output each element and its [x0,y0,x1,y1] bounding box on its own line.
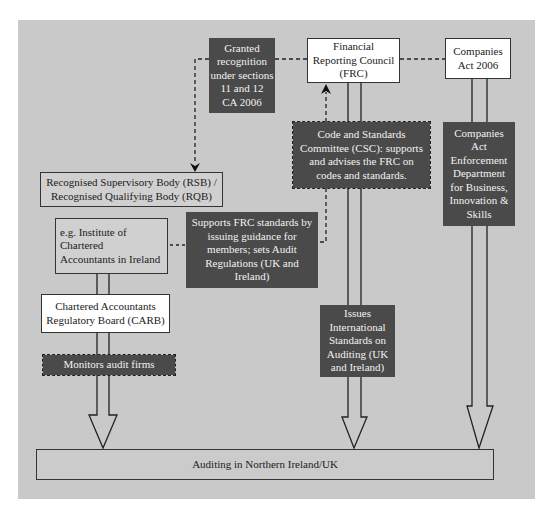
enforcement-department-box: Companies Act Enforcement Department for… [443,122,515,226]
hollow-arrow-carb [89,375,117,448]
arrowhead-rsb [190,163,200,172]
dashed-connector-csc-supports [318,188,326,242]
rsb-rqb-label: Recognised Supervisory Body (RSB) / Reco… [46,176,217,203]
monitors-box: Monitors audit firms [43,355,175,375]
auditing-ni-uk-box: Auditing in Northern Ireland/UK [36,449,494,480]
frc-box: Financial Reporting Council (FRC) [307,38,400,83]
auditing-ni-uk-label: Auditing in Northern Ireland/UK [192,458,338,472]
csc-box: Code and Standards Committee (CSC): supp… [293,122,430,188]
enforcement-department-label: Companies Act Enforcement Department for… [450,127,509,222]
issues-isa-label: Issues International Standards on Auditi… [327,307,388,375]
granted-recognition-box: Granted recognition under sections 11 an… [209,38,275,113]
carb-label: Chartered Accountants Regulatory Board (… [46,300,165,327]
granted-recognition-label: Granted recognition under sections 11 an… [210,42,273,110]
issues-isa-box: Issues International Standards on Auditi… [320,305,395,377]
hollow-arrow-companies-act [467,226,493,448]
companies-act-label: Companies Act 2006 [453,45,503,72]
monitors-label: Monitors audit firms [63,358,154,372]
csc-label: Code and Standards Committee (CSC): supp… [300,128,423,182]
frc-label: Financial Reporting Council (FRC) [313,40,395,81]
rsb-rqb-box: Recognised Supervisory Body (RSB) / Reco… [40,172,223,207]
institute-box: e.g. Institute of Chartered Accountants … [55,218,168,274]
dashed-connector-granted-rsb [195,59,209,164]
supports-frc-box: Supports FRC standards by issuing guidan… [186,212,318,288]
hollow-arrow-frc [342,377,367,448]
carb-box: Chartered Accountants Regulatory Board (… [41,294,170,333]
institute-label: e.g. Institute of Chartered Accountants … [60,226,160,267]
supports-frc-label: Supports FRC standards by issuing guidan… [192,216,313,284]
companies-act-box: Companies Act 2006 [445,38,511,79]
